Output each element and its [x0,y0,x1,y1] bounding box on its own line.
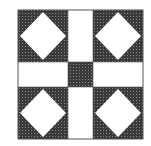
center-square [68,62,93,87]
quilt-block-figure [0,0,151,146]
